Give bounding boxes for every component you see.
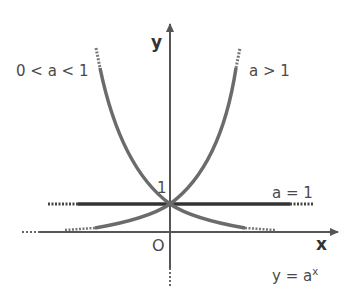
formula-label: y = ax bbox=[272, 267, 318, 284]
y-intercept-label: 1 bbox=[157, 181, 167, 196]
formula-exponent: x bbox=[312, 266, 318, 277]
x-axis-label: x bbox=[316, 236, 327, 253]
y-axis-label: y bbox=[151, 34, 162, 51]
label-0-less-a-less-1: 0 < a < 1 bbox=[16, 64, 89, 79]
exponential-graph bbox=[0, 0, 359, 306]
label-a-greater-1: a > 1 bbox=[249, 64, 290, 79]
label-a-equals-1: a = 1 bbox=[272, 186, 313, 201]
formula-base: y = a bbox=[272, 267, 312, 285]
origin-label: O bbox=[152, 238, 165, 254]
